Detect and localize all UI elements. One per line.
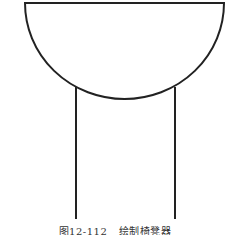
stool-diagram	[0, 0, 230, 235]
caption-title: 绘制椅凳器	[119, 226, 172, 235]
bowl-shape	[25, 3, 224, 99]
figure-caption: 图12-112 绘制椅凳器	[0, 223, 230, 235]
caption-number: 图12-112	[59, 226, 108, 235]
